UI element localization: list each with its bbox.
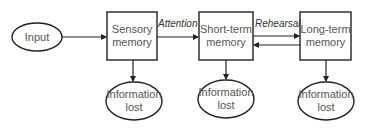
node-short-term-label-line2: memory	[206, 36, 246, 48]
node-long-term-memory: Long-term memory	[300, 12, 351, 60]
lost-long-term-label-line2: lost	[317, 101, 334, 113]
lost-short-term-label-line2: lost	[217, 99, 234, 111]
edge-short-term-to-long-term: Rehearsal	[253, 18, 301, 36]
node-input: Input	[12, 23, 62, 51]
lost-sensory-label-line1: Information	[106, 88, 161, 100]
lost-sensory-label-line2: lost	[125, 101, 142, 113]
lost-short-term-label-line1: Information	[198, 86, 253, 98]
node-input-label: Input	[25, 31, 49, 43]
node-lost-from-sensory: Information lost	[106, 82, 162, 120]
node-short-term-label-line1: Short-term	[200, 23, 252, 35]
diagram-canvas: Input Sensory memory Short-term memory L…	[0, 0, 368, 128]
node-long-term-label-line2: memory	[306, 36, 346, 48]
edge-sensory-to-short-term: Attention	[157, 18, 198, 37]
node-lost-from-long-term: Information lost	[298, 82, 354, 120]
memory-model-diagram: Input Sensory memory Short-term memory L…	[0, 0, 368, 128]
node-sensory-label-line1: Sensory	[112, 23, 153, 35]
lost-long-term-label-line1: Information	[298, 88, 353, 100]
node-sensory-label-line2: memory	[112, 36, 152, 48]
edge-attention-label: Attention	[157, 18, 198, 29]
node-long-term-label-line1: Long-term	[300, 23, 350, 35]
edge-rehearsal-label: Rehearsal	[255, 18, 301, 29]
node-short-term-memory: Short-term memory	[199, 12, 253, 60]
node-sensory-memory: Sensory memory	[107, 12, 157, 60]
node-lost-from-short-term: Information lost	[198, 80, 254, 118]
